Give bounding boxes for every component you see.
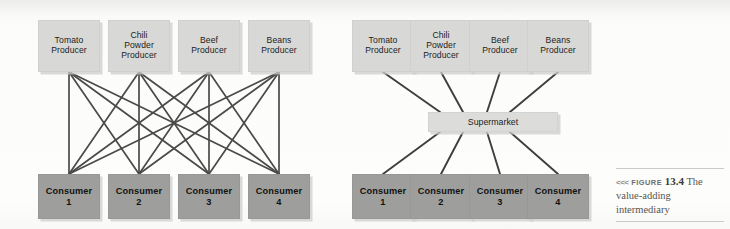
consumer-label-line: Consumer bbox=[353, 186, 413, 196]
producer-label-line: Producer bbox=[411, 51, 471, 61]
node-consumer-2[interactable]: Consumer 2 bbox=[108, 174, 170, 219]
node-consumer-3[interactable]: Consumer 3 bbox=[469, 174, 531, 219]
figure-page: Tomato Producer Chili Powder Producer Be… bbox=[0, 0, 730, 229]
consumer-label-line: 4 bbox=[249, 197, 309, 207]
node-consumer-1[interactable]: Consumer 1 bbox=[38, 174, 100, 219]
node-consumer-4[interactable]: Consumer 4 bbox=[248, 174, 310, 219]
node-producer-tomato[interactable]: Tomato Producer bbox=[38, 20, 100, 72]
consumer-label-line: Consumer bbox=[411, 186, 471, 196]
node-producer-beef[interactable]: Beef Producer bbox=[469, 20, 531, 72]
node-producer-beans[interactable]: Beans Producer bbox=[527, 20, 589, 72]
caption-arrows-icon: <<< bbox=[616, 178, 629, 187]
consumer-label-line: 2 bbox=[109, 197, 169, 207]
intermediary-label: Supermarket bbox=[429, 117, 557, 127]
producer-label-line: Producer bbox=[528, 46, 588, 56]
node-consumer-4[interactable]: Consumer 4 bbox=[527, 174, 589, 219]
consumer-label-line: Consumer bbox=[249, 186, 309, 196]
diagram-intermediary-distribution: Tomato Producer Chili Powder Producer Be… bbox=[352, 0, 620, 229]
node-consumer-1[interactable]: Consumer 1 bbox=[352, 174, 414, 219]
node-consumer-3[interactable]: Consumer 3 bbox=[178, 174, 240, 219]
producer-label-line: Producer bbox=[470, 46, 530, 56]
consumer-label-line: 1 bbox=[353, 197, 413, 207]
node-producer-beans[interactable]: Beans Producer bbox=[248, 20, 310, 72]
node-producer-chili-powder[interactable]: Chili Powder Producer bbox=[108, 20, 170, 72]
producer-label-line: Producer bbox=[109, 51, 169, 61]
caption-figure-number: 13.4 bbox=[665, 175, 684, 187]
producer-label-line: Producer bbox=[179, 46, 239, 56]
consumer-label-line: 2 bbox=[411, 197, 471, 207]
node-producer-beef[interactable]: Beef Producer bbox=[178, 20, 240, 72]
consumer-label-line: Consumer bbox=[470, 186, 530, 196]
consumer-label-line: Consumer bbox=[179, 186, 239, 196]
consumer-label-line: 3 bbox=[179, 197, 239, 207]
producer-label-line: Producer bbox=[249, 46, 309, 56]
node-producer-chili-powder[interactable]: Chili Powder Producer bbox=[410, 20, 472, 72]
consumer-label-line: 1 bbox=[39, 197, 99, 207]
figure-caption: <<< FIGURE 13.4 The value-adding interme… bbox=[616, 168, 724, 222]
diagram-direct-distribution: Tomato Producer Chili Powder Producer Be… bbox=[0, 0, 340, 229]
consumer-label-line: 3 bbox=[470, 197, 530, 207]
consumer-label-line: Consumer bbox=[528, 186, 588, 196]
producer-label-line: Producer bbox=[353, 46, 413, 56]
consumer-label-line: Consumer bbox=[109, 186, 169, 196]
caption-figure-word: FIGURE bbox=[631, 178, 662, 187]
consumer-label-line: Consumer bbox=[39, 186, 99, 196]
producer-label-line: Producer bbox=[39, 46, 99, 56]
consumer-label-line: 4 bbox=[528, 197, 588, 207]
node-producer-tomato[interactable]: Tomato Producer bbox=[352, 20, 414, 72]
node-consumer-2[interactable]: Consumer 2 bbox=[410, 174, 472, 219]
node-intermediary-supermarket[interactable]: Supermarket bbox=[428, 112, 558, 132]
